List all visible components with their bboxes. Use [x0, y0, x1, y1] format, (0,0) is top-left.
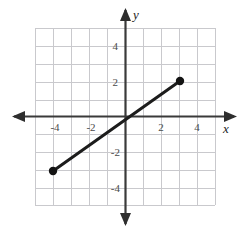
y-tick-label-pos4: 4	[113, 40, 119, 52]
x-axis-label: x	[222, 121, 229, 136]
coordinate-plane-svg: x y -4 -2 2 4 4 2 -2 -4	[0, 0, 250, 232]
x-tick-label-pos4: 4	[194, 121, 200, 133]
segment-endpoint-left	[49, 167, 57, 175]
segment-endpoint-right	[176, 77, 184, 85]
x-tick-label-neg2: -2	[86, 121, 95, 133]
y-tick-label-pos2: 2	[113, 76, 119, 88]
y-tick-label-neg4: -4	[111, 182, 121, 194]
x-tick-label-pos2: 2	[158, 121, 164, 133]
graph-figure: x y -4 -2 2 4 4 2 -2 -4	[0, 0, 250, 232]
y-tick-label-neg2: -2	[111, 146, 120, 158]
x-tick-label-neg4: -4	[50, 121, 60, 133]
y-axis-label: y	[131, 7, 139, 22]
